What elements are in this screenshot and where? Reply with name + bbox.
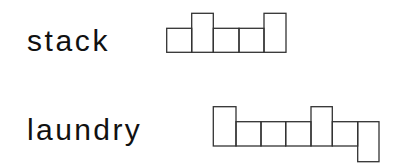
letter-box-l-tall [213,107,236,146]
letter-box-c-short [239,28,264,52]
word-shape-diagram [0,0,400,168]
word-shape-laundry [213,107,379,162]
letter-box-a-short [236,122,261,146]
letter-box-d-tall [311,107,332,146]
letter-box-r-short [332,122,357,146]
word-shape-stack [167,13,286,52]
letter-box-y-descender [358,122,379,162]
letter-box-n-short [286,122,311,146]
letter-box-k-tall [264,13,286,52]
letter-box-s-short [167,28,192,52]
letter-box-u-short [261,122,286,146]
letter-box-t-tall [192,13,214,52]
letter-box-a-short [213,28,239,52]
